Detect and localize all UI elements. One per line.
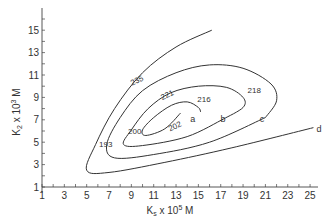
annotation-label: 202 <box>167 119 183 133</box>
annotation-label: a <box>190 114 195 124</box>
annotation-label: 200 <box>128 127 142 136</box>
y-tick-label: 9 <box>33 92 39 103</box>
y-tick-label: 1 <box>33 182 39 193</box>
contour-chart: 13579111315171921232513579111315 2352212… <box>0 0 327 224</box>
annotation-label: 216 <box>197 95 211 104</box>
x-tick-label: 9 <box>129 190 135 201</box>
x-tick-label: 13 <box>170 190 182 201</box>
annotation-label: d <box>317 124 322 134</box>
annotation-label: 193 <box>99 140 113 149</box>
y-tick-label: 5 <box>33 137 39 148</box>
x-tick-label: 15 <box>193 190 205 201</box>
x-tick-label: 19 <box>237 190 249 201</box>
contour-labels: 235221216218200202193abcd <box>99 73 322 148</box>
x-tick-label: 23 <box>282 190 294 201</box>
x-tick-label: 25 <box>305 190 317 201</box>
y-tick-label: 7 <box>33 114 39 125</box>
annotation-label: 218 <box>248 86 262 95</box>
y-tick-label: 13 <box>28 47 40 58</box>
x-tick-label: 21 <box>260 190 272 201</box>
y-tick-label: 3 <box>33 159 39 170</box>
x-tick-label: 1 <box>39 190 45 201</box>
x-tick-label: 11 <box>149 190 160 201</box>
x-axis-label: Ks x 105 M <box>147 204 194 217</box>
annotation-label: 235 <box>129 73 145 87</box>
contour-b <box>123 86 245 147</box>
y-tick-label: 11 <box>29 70 40 81</box>
x-tick-label: 17 <box>215 190 227 201</box>
x-tick-label: 3 <box>62 190 68 201</box>
y-tick-label: 15 <box>28 25 40 36</box>
x-tick-label: 7 <box>106 190 112 201</box>
annotation-label: c <box>260 114 265 124</box>
y-axis-label: K2 x 103 M <box>10 88 23 135</box>
x-tick-label: 5 <box>84 190 90 201</box>
annotation-label: b <box>220 114 225 124</box>
chart-svg: 13579111315171921232513579111315 2352212… <box>0 0 327 224</box>
annotation-label: 221 <box>159 88 175 102</box>
